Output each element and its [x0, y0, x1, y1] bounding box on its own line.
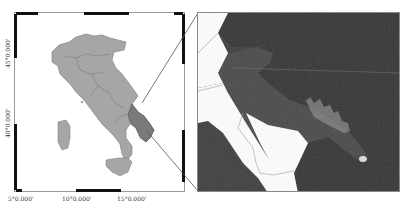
y-tick-label: 45°0.000' — [4, 39, 11, 68]
x-tick-label: 10°0.000' — [62, 195, 91, 202]
x-tick-label: 5°0.000' — [8, 195, 34, 202]
frame-tick — [14, 14, 17, 58]
y-tick-label: 40°0.000' — [4, 109, 11, 138]
frame-tick — [84, 12, 129, 15]
map-frame — [14, 12, 185, 192]
frame-tick — [182, 14, 185, 64]
overview-map — [14, 12, 185, 192]
frame-tick — [16, 12, 38, 15]
satellite-detail — [198, 13, 400, 192]
x-tick-label: 15°0.000' — [117, 195, 146, 202]
frame-tick — [76, 189, 121, 192]
frame-tick — [14, 124, 17, 190]
detail-map — [197, 12, 400, 192]
frame-tick — [182, 130, 185, 182]
